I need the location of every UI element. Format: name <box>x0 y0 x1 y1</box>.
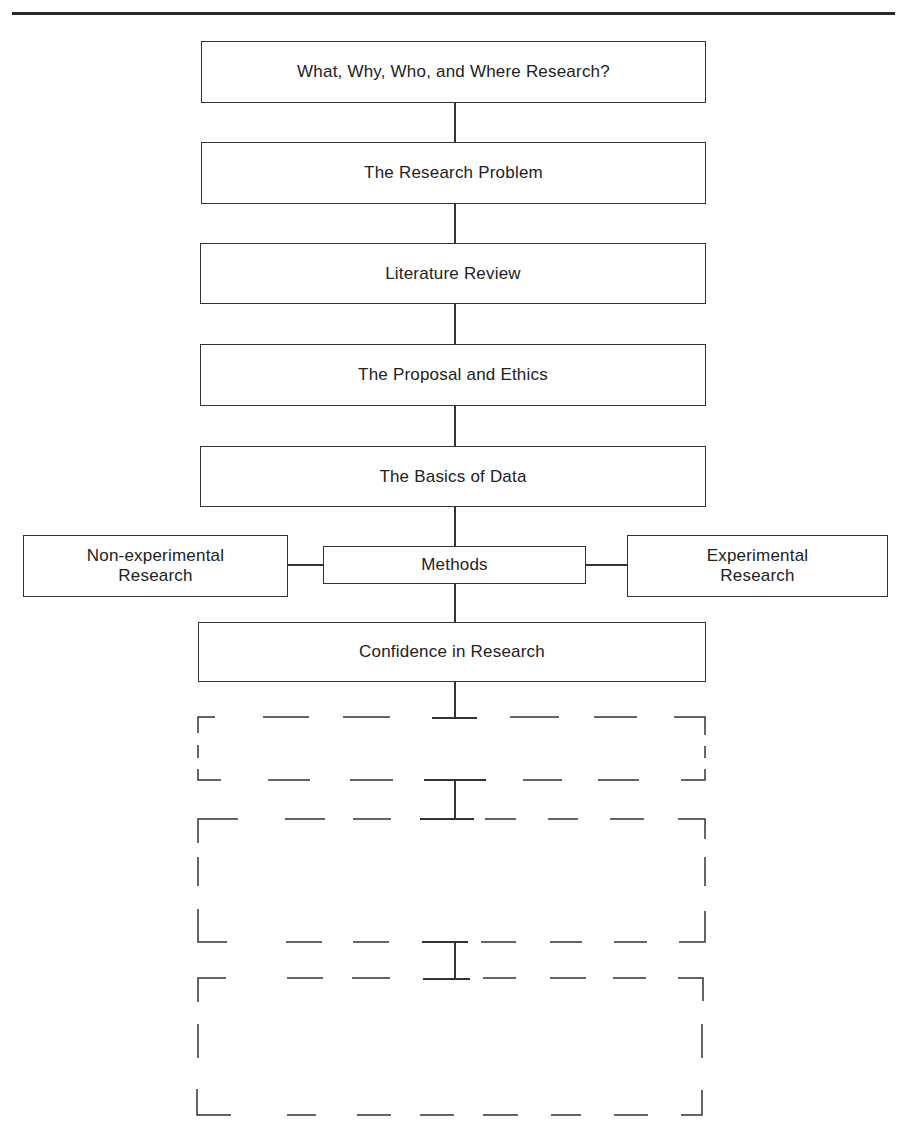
connector-7-future1 <box>454 681 456 718</box>
step-label: Literature Review <box>385 264 521 284</box>
step-box-proposal-ethics: The Proposal and Ethics <box>200 344 706 406</box>
connector-methods-7 <box>454 583 456 622</box>
placeholder-box-1 <box>198 717 706 781</box>
connector-2-3 <box>454 203 456 243</box>
branch-label-line2: Research <box>720 566 794 586</box>
step-box-literature-review: Literature Review <box>200 243 706 304</box>
connector-methods-right <box>585 564 627 566</box>
step-box-research-problem: The Research Problem <box>201 142 706 204</box>
step-label: What, Why, Who, and Where Research? <box>297 62 610 82</box>
step-box-basics-of-data: The Basics of Data <box>200 446 706 507</box>
step-label: Methods <box>421 555 488 575</box>
connector-5-methods <box>454 506 456 546</box>
step-box-what-why-who-where: What, Why, Who, and Where Research? <box>201 41 706 103</box>
page-header-rule <box>12 12 895 15</box>
connector-future2-future3 <box>454 942 456 979</box>
step-label: The Proposal and Ethics <box>358 365 548 385</box>
step-box-confidence: Confidence in Research <box>198 622 706 682</box>
connector-methods-left <box>287 564 323 566</box>
branch-box-experimental: Experimental Research <box>627 535 888 597</box>
placeholder-box-2 <box>198 819 706 943</box>
step-label: The Basics of Data <box>379 467 526 487</box>
placeholder-box-3 <box>197 978 706 1117</box>
branch-label-line1: Experimental <box>707 546 809 566</box>
connector-4-5 <box>454 405 456 446</box>
connector-1-2 <box>454 102 456 142</box>
branch-label-line2: Research <box>118 566 192 586</box>
connector-3-4 <box>454 303 456 344</box>
connector-future1-future2 <box>454 780 456 819</box>
branch-box-non-experimental: Non-experimental Research <box>23 535 288 597</box>
step-label: The Research Problem <box>364 163 543 183</box>
step-label: Confidence in Research <box>359 642 545 662</box>
branch-label-line1: Non-experimental <box>87 546 224 566</box>
step-box-methods: Methods <box>323 546 586 584</box>
